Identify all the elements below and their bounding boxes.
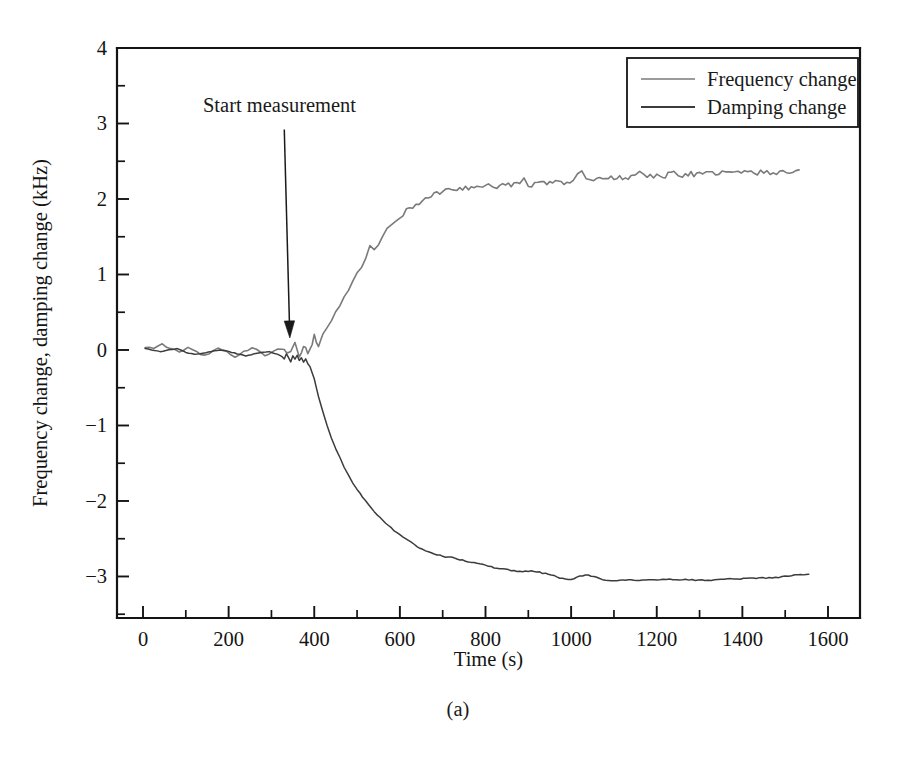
figure-panel-a: −3−2−10123402004006008001000120014001600… (0, 0, 917, 759)
x-tick-label: 1600 (808, 628, 849, 650)
x-tick-label: 1200 (636, 628, 677, 650)
legend-label: Frequency change (707, 68, 857, 91)
x-axis-title: Time (s) (454, 648, 523, 671)
axis-ticks (117, 48, 828, 618)
y-tick-label: 2 (97, 188, 107, 210)
y-tick-label: −2 (85, 490, 107, 512)
axis-tick-labels: −3−2−10123402004006008001000120014001600 (85, 37, 848, 650)
x-tick-label: 600 (385, 628, 416, 650)
y-axis-title: Frequency change, damping change (kHz) (29, 159, 52, 507)
y-tick-label: 1 (97, 263, 107, 285)
series-frequency-change (145, 170, 799, 357)
figure-caption: (a) (447, 698, 470, 721)
y-tick-label: −3 (85, 565, 107, 587)
y-tick-label: 3 (97, 112, 107, 134)
y-tick-label: 4 (97, 37, 107, 59)
legend-label: Damping change (707, 96, 846, 119)
chart-annotations: Start measurement (203, 94, 356, 338)
chart-legend: Frequency changeDamping change (627, 58, 858, 127)
axes (117, 48, 860, 618)
x-tick-label: 800 (470, 628, 501, 650)
y-tick-label: −1 (85, 414, 107, 436)
x-tick-label: 0 (138, 628, 148, 650)
x-tick-label: 400 (299, 628, 330, 650)
x-tick-label: 200 (213, 628, 244, 650)
x-tick-label: 1000 (551, 628, 592, 650)
data-series (145, 170, 809, 581)
annotation-label: Start measurement (203, 94, 356, 116)
x-tick-label: 1400 (722, 628, 763, 650)
annotation-arrowhead (284, 321, 294, 338)
y-tick-label: 0 (97, 339, 107, 361)
chart-canvas: −3−2−10123402004006008001000120014001600… (0, 0, 917, 759)
series-damping-change (145, 348, 809, 580)
